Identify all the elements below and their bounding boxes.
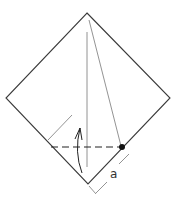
diagram-svg — [0, 0, 180, 206]
dimension-label-a: a — [110, 168, 117, 180]
paper-square-outline — [6, 13, 170, 184]
reference-point-dot — [119, 144, 125, 150]
origami-diagram: a — [0, 0, 180, 206]
